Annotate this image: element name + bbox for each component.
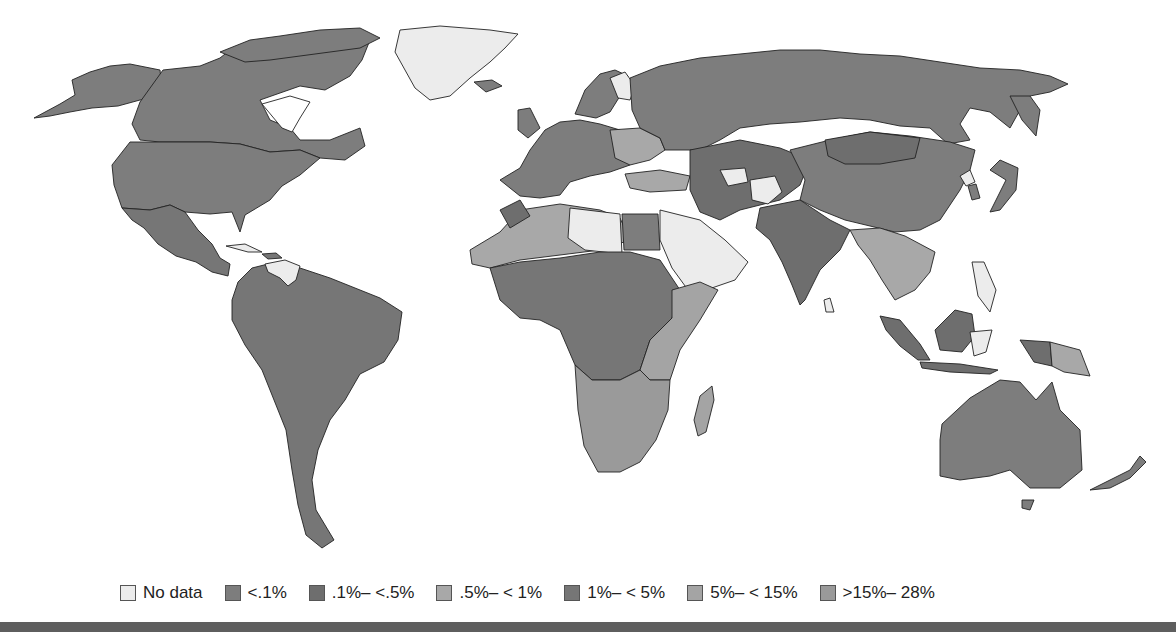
region-hispaniola [262,253,282,259]
region-iceland [474,80,502,92]
legend-label: No data [143,583,203,603]
region-arabia [660,210,748,290]
bottom-bar [0,622,1176,632]
region-new-zealand [1090,456,1146,490]
legend-swatch-0-5-1 [436,585,452,601]
region-australia [940,380,1082,488]
legend-label: 1%– < 5% [587,583,665,603]
region-madagascar [694,386,714,436]
legend-swatch-5-15 [687,585,703,601]
legend-swatch-15-28 [820,585,836,601]
region-borneo [935,310,975,352]
region-mexico-central-america [122,205,230,276]
legend-item-1-5: 1%– < 5% [564,583,665,603]
legend-label: .1%– <.5% [332,583,415,603]
region-japan [990,160,1018,212]
region-russia [630,50,1068,150]
region-greenland [395,26,518,100]
region-java [920,362,998,374]
legend-swatch-1-5 [564,585,580,601]
legend-label: 5%– < 15% [710,583,797,603]
legend-item-0-5-1: .5%– < 1% [436,583,542,603]
region-sumatra [880,316,930,360]
region-mongolia [825,132,920,164]
region-egypt [622,214,660,250]
legend-item-5-15: 5%– < 15% [687,583,797,603]
region-philippines [972,262,996,312]
legend-swatch-no-data [120,585,136,601]
region-south-america [232,264,402,548]
region-papua [1020,340,1052,366]
region-png [1050,342,1090,376]
legend-label: <.1% [248,583,287,603]
region-uk [518,108,540,138]
legend-item-lt-0-1: <.1% [225,583,287,603]
legend-item-15-28: >15%– 28% [820,583,935,603]
region-turkey [625,170,690,192]
legend-label: .5%– < 1% [459,583,542,603]
region-cuba [226,244,262,252]
region-sulawesi [970,330,992,356]
legend-label: >15%– 28% [843,583,935,603]
region-tasmania [1022,500,1034,510]
region-sri-lanka [824,298,834,312]
world-map [0,0,1176,570]
region-southern-africa [575,365,670,472]
legend-item-no-data: No data [120,583,203,603]
legend-swatch-lt-0-1 [225,585,241,601]
region-south-korea [968,184,980,200]
legend: No data <.1% .1%– <.5% .5%– < 1% 1%– < 5… [120,578,957,608]
legend-item-0-1-0-5: .1%– <.5% [309,583,415,603]
region-southeast-asia [850,228,935,300]
legend-swatch-0-1-0-5 [309,585,325,601]
